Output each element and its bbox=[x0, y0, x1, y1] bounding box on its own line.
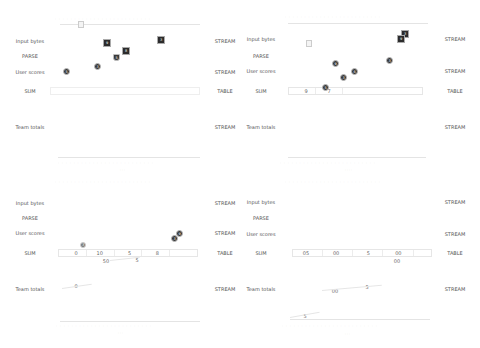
row-label-input: Input bytes bbox=[5, 38, 55, 44]
row-label-sum: SUM bbox=[236, 250, 286, 256]
marker-circle-icon: 5 bbox=[322, 84, 329, 91]
bottom-axis-ticks: · · · · · · · · · · · · · · · · · · · · … bbox=[282, 324, 437, 327]
marker-circle-icon: 6 bbox=[351, 68, 358, 75]
type-label-table: TABLE bbox=[440, 88, 470, 94]
marker-circle-icon: 3 bbox=[386, 57, 393, 64]
marker-square-icon: 9 bbox=[397, 35, 405, 43]
panel-top-left: · · · · · · · · · · · · · · · · · · · · … bbox=[0, 0, 240, 174]
bottom-axis bbox=[60, 321, 200, 322]
sum-table-cell: 00 bbox=[383, 250, 413, 256]
row-label-totals: Team totals bbox=[5, 124, 55, 130]
sum-table-cell bbox=[343, 88, 422, 94]
marker-circle-icon: 3 bbox=[340, 74, 347, 81]
type-label-stream: STREAM bbox=[440, 231, 470, 237]
marker-circle-icon: 5 bbox=[63, 68, 70, 75]
marker-circle-icon: 9 bbox=[332, 60, 339, 67]
bottom-axis-caption: · · · bbox=[120, 168, 125, 172]
sum-table-cell bbox=[170, 250, 197, 256]
top-ruler-ticks: · · · · · · · · · · · · · · · · · · · · … bbox=[55, 180, 205, 183]
row-label-input: Input bytes bbox=[236, 36, 286, 42]
row-label-sum: SUM bbox=[236, 88, 286, 94]
bottom-axis-ticks: · · · · · · · · · · · · · · · · · · · · … bbox=[56, 324, 206, 327]
type-label-table: TABLE bbox=[440, 250, 470, 256]
marker-ghost-icon bbox=[78, 21, 84, 28]
sum-table-cell: 7 bbox=[316, 88, 343, 94]
sum-table: 9 7 bbox=[288, 87, 423, 95]
row-label-parse: PARSE bbox=[5, 215, 55, 221]
sum-table bbox=[50, 87, 200, 95]
sum-table-cell: 5 bbox=[353, 250, 383, 256]
top-ruler-ticks: · · · · · · · · · · · · · · · · · · · · … bbox=[285, 15, 435, 18]
bottom-axis bbox=[288, 157, 426, 158]
marker-square-icon: 9 bbox=[103, 39, 111, 47]
row-label-totals: Team totals bbox=[5, 286, 55, 292]
panel-bottom-left: · · · · · · · · · · · · · · · · · · · · … bbox=[0, 174, 240, 348]
sum-table-cell: 10 bbox=[87, 250, 115, 256]
top-ruler-ticks: · · · · · · · · · · · · · · · · · · · · … bbox=[55, 17, 200, 20]
panel-top-right: · · · · · · · · · · · · · · · · · · · · … bbox=[240, 0, 480, 174]
row-label-parse: PARSE bbox=[236, 215, 286, 221]
row-label-scores: User scores bbox=[5, 230, 55, 236]
row-label-scores: User scores bbox=[236, 68, 286, 74]
sum-table-cell: 00 bbox=[323, 250, 353, 256]
row-label-parse: PARSE bbox=[236, 53, 286, 59]
marker-square-icon: 3 bbox=[157, 36, 165, 44]
type-label-stream: STREAM bbox=[440, 68, 470, 74]
top-ruler-ticks: · · · · · · · · · · · · · · · · · · · · … bbox=[285, 180, 435, 183]
row-label-parse: PARSE bbox=[5, 53, 55, 59]
top-ruler bbox=[288, 23, 428, 24]
marker-ghost-icon bbox=[306, 40, 312, 47]
marker-circle-icon: 3 bbox=[94, 63, 101, 70]
bottom-axis-ticks: · · · · · · · · · · · · · · · · · · · · … bbox=[58, 161, 203, 164]
bottom-axis-caption: · · · bbox=[118, 331, 123, 335]
row-label-sum: SUM bbox=[5, 250, 55, 256]
sum-table-cell: 0 bbox=[59, 250, 87, 256]
bottom-axis bbox=[290, 319, 430, 320]
below-table-value: 50 bbox=[103, 258, 109, 264]
sum-table-cell bbox=[414, 250, 431, 256]
row-label-totals: Team totals bbox=[236, 286, 286, 292]
sum-table: 05 00 5 00 bbox=[292, 249, 432, 257]
bottom-axis-caption: · · · · bbox=[345, 168, 352, 172]
type-label-stream: STREAM bbox=[440, 199, 470, 205]
panel-bottom-right: · · · · · · · · · · · · · · · · · · · · … bbox=[240, 174, 480, 348]
row-label-input: Input bytes bbox=[5, 200, 55, 206]
type-label-stream: STREAM bbox=[440, 286, 470, 292]
type-label-stream: STREAM bbox=[440, 124, 470, 130]
below-table-value: 00 bbox=[394, 258, 400, 264]
sum-table-cell: 8 bbox=[142, 250, 170, 256]
sum-table: 0 10 5 8 bbox=[58, 249, 198, 257]
sum-table-cell: 9 bbox=[289, 88, 316, 94]
row-label-input: Input bytes bbox=[236, 199, 286, 205]
row-label-sum: SUM bbox=[5, 88, 55, 94]
row-label-totals: Team totals bbox=[236, 124, 286, 130]
marker-circle-icon: 3 bbox=[171, 235, 178, 242]
bottom-axis-caption: · · · bbox=[345, 332, 350, 336]
row-label-scores: User scores bbox=[236, 231, 286, 237]
type-label-stream: STREAM bbox=[440, 36, 470, 42]
sum-table-cell: 5 bbox=[115, 250, 143, 256]
sum-table-cell: 05 bbox=[293, 250, 323, 256]
bottom-axis-ticks: · · · · · · · · · · · · · · · · · · · · … bbox=[280, 161, 435, 164]
marker-circle-icon: 3 bbox=[80, 242, 86, 248]
marker-square-icon: 8 bbox=[122, 47, 130, 55]
bottom-axis bbox=[58, 157, 200, 158]
marker-shield-icon: 5 bbox=[113, 54, 120, 61]
row-label-scores: User scores bbox=[5, 69, 55, 75]
